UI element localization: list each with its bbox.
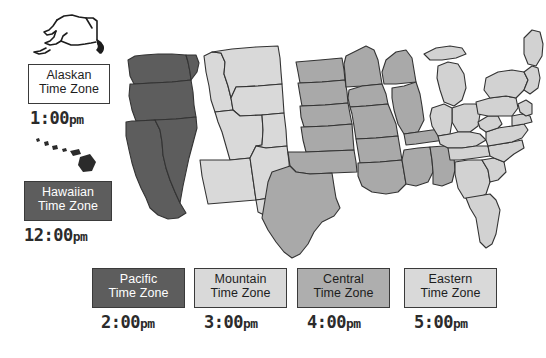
hawaii-islands-icon [36, 138, 96, 172]
state-texas [262, 166, 340, 258]
state-pennsylvania [476, 96, 518, 116]
zone-label-pacific[interactable]: Pacific Time Zone [92, 268, 185, 308]
state-new-york [484, 70, 528, 98]
zone-label-pacific-line2: Time Zone [93, 286, 184, 300]
zone-label-hawaiian[interactable]: Hawaiian Time Zone [24, 181, 112, 221]
state-ohio [452, 104, 480, 132]
zone-label-mountain-line2: Time Zone [195, 286, 286, 300]
zone-label-central-line1: Central [298, 272, 389, 286]
time-suffix-alaskan: pm [69, 112, 84, 127]
island-hawaii [78, 154, 96, 172]
zone-label-alaskan-line1: Alaskan [29, 68, 109, 82]
state-north-dakota [296, 58, 345, 83]
state-wyoming [231, 84, 284, 116]
map-region-eastern[interactable] [424, 30, 543, 248]
time-minutes-pacific: :00 [111, 312, 140, 332]
island-oahu [52, 145, 58, 150]
state-louisiana [358, 160, 406, 194]
zone-label-eastern-line2: Time Zone [405, 286, 496, 300]
time-suffix-central: pm [346, 316, 361, 331]
state-kansas [301, 124, 354, 152]
time-readout-eastern: 5:00pm [414, 312, 468, 332]
island-niihau [36, 138, 40, 142]
state-new-jersey [518, 100, 532, 116]
state-minnesota [344, 46, 382, 87]
map-region-pacific[interactable] [126, 54, 199, 219]
state-michigan-upper [424, 46, 466, 60]
state-georgia [455, 160, 490, 200]
zone-label-mountain[interactable]: Mountain Time Zone [194, 268, 287, 308]
zone-label-central[interactable]: Central Time Zone [297, 268, 390, 308]
state-missouri [350, 104, 398, 139]
island-molokai [62, 148, 67, 152]
state-iowa [348, 84, 388, 107]
time-minutes-central: :00 [317, 312, 346, 332]
time-readout-alaskan: 1:00pm [30, 108, 84, 128]
time-readout-pacific: 2:00pm [101, 312, 155, 332]
time-minutes-mountain: :00 [214, 312, 243, 332]
state-south-dakota [298, 80, 348, 106]
time-minutes-alaskan: :00 [40, 108, 69, 128]
time-readout-hawaiian: 12:00pm [24, 225, 87, 245]
zone-label-hawaiian-line2: Time Zone [25, 199, 111, 213]
zone-label-pacific-line1: Pacific [93, 272, 184, 286]
time-minutes-eastern: :00 [424, 312, 453, 332]
state-tennessee-east [448, 146, 490, 160]
island-kauai [44, 141, 49, 146]
time-suffix-hawaiian: pm [73, 229, 88, 244]
time-value-alaskan: 1 [30, 108, 40, 128]
state-oklahoma [288, 150, 357, 174]
state-michigan-lower [437, 62, 466, 106]
state-nebraska [300, 103, 352, 127]
zone-label-hawaiian-line1: Hawaiian [25, 185, 111, 199]
map-region-central[interactable] [262, 46, 455, 258]
time-value-mountain: 3 [204, 312, 214, 332]
state-wisconsin [382, 50, 416, 84]
state-oregon [129, 80, 196, 121]
time-value-eastern: 5 [414, 312, 424, 332]
alaska-outline-icon [34, 15, 103, 54]
zone-label-alaskan-line2: Time Zone [29, 82, 109, 96]
time-value-central: 4 [307, 312, 317, 332]
state-mississippi [402, 147, 433, 186]
time-value-pacific: 2 [101, 312, 111, 332]
state-florida [466, 194, 500, 248]
time-suffix-pacific: pm [140, 316, 155, 331]
time-readout-mountain: 3:00pm [204, 312, 258, 332]
state-maryland [512, 114, 532, 126]
time-suffix-eastern: pm [453, 316, 468, 331]
time-minutes-hawaiian: :00 [43, 225, 72, 245]
state-arizona [200, 158, 256, 204]
zone-label-central-line2: Time Zone [298, 286, 389, 300]
state-washington [128, 54, 191, 84]
zone-label-eastern[interactable]: Eastern Time Zone [404, 268, 497, 308]
zone-label-eastern-line1: Eastern [405, 272, 496, 286]
island-maui [70, 149, 81, 156]
zone-label-mountain-line1: Mountain [195, 272, 286, 286]
zone-label-alaskan[interactable]: Alaskan Time Zone [28, 64, 110, 104]
state-arkansas [356, 136, 402, 163]
state-maine [524, 30, 543, 66]
time-suffix-mountain: pm [243, 316, 258, 331]
time-readout-central: 4:00pm [307, 312, 361, 332]
time-value-hawaiian: 12 [24, 225, 43, 245]
time-zone-map-figure: Alaskan Time Zone 1:00pm Hawaiian Time Z… [0, 0, 546, 358]
